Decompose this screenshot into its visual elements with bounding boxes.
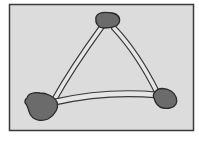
triangle-graph-diagram <box>0 0 199 144</box>
node-top <box>96 12 120 28</box>
